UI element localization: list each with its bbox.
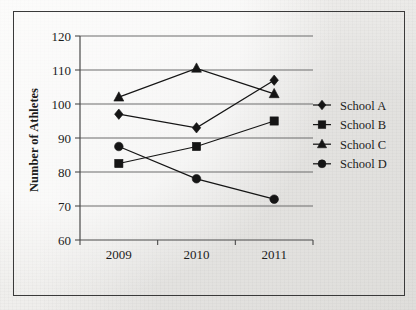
y-tick-label: 70	[58, 199, 71, 214]
x-tick-label: 2010	[184, 247, 210, 262]
data-point-square-marker	[270, 117, 278, 125]
legend-item-school-d[interactable]: School D	[313, 157, 387, 171]
data-point-square-marker	[115, 159, 123, 167]
legend-item-school-c[interactable]: School C	[313, 138, 386, 152]
x-tick-label: 2011	[261, 247, 287, 262]
y-tick-label: 90	[58, 131, 71, 146]
line-chart: 60708090100110120 200920102011 School AS…	[0, 0, 416, 310]
y-tick-label: 110	[52, 63, 71, 78]
x-tick-label: 2009	[106, 247, 132, 262]
data-point-diamond-marker	[270, 75, 279, 85]
legend-triangle-icon	[317, 139, 326, 148]
data-point-triangle-marker	[192, 63, 202, 72]
series-school-d	[115, 142, 279, 203]
y-tick-label: 60	[58, 233, 71, 248]
y-tick-label: 100	[52, 97, 72, 112]
data-point-diamond-marker	[115, 109, 124, 119]
y-axis-tick-labels: 60708090100110120	[52, 29, 72, 248]
data-point-circle-marker	[270, 195, 279, 204]
series-line	[119, 68, 274, 97]
data-point-diamond-marker	[192, 123, 201, 133]
data-point-square-marker	[192, 142, 200, 150]
legend-item-school-a[interactable]: School A	[313, 99, 386, 113]
legend-label: School A	[340, 99, 386, 113]
data-point-circle-marker	[115, 142, 124, 151]
legend-label: School C	[340, 138, 386, 152]
data-point-circle-marker	[192, 175, 201, 184]
data-series-group	[114, 63, 279, 204]
series-line	[119, 147, 274, 200]
x-axis-tick-labels: 200920102011	[106, 247, 287, 262]
chart-legend: School ASchool BSchool CSchool D	[313, 99, 387, 172]
legend-square-icon	[318, 121, 326, 129]
legend-label: School D	[340, 157, 387, 171]
y-tick-label: 80	[58, 165, 71, 180]
y-tick-label: 120	[52, 29, 72, 44]
legend-label: School B	[340, 118, 386, 132]
legend-diamond-icon	[318, 100, 326, 110]
y-axis-title: Number of Athletes	[27, 88, 41, 192]
legend-circle-icon	[318, 160, 326, 168]
legend-item-school-b[interactable]: School B	[313, 118, 386, 132]
series-school-c	[114, 63, 279, 101]
